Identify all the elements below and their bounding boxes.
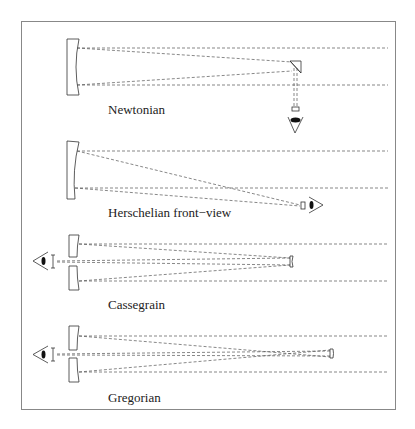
eyepiece <box>292 107 299 111</box>
gregorian-label: Gregorian <box>108 390 161 405</box>
secondary-mirror <box>330 349 334 358</box>
reflected-beam <box>79 350 330 372</box>
herschelian-panel: Herschelian front−view <box>67 141 388 220</box>
eyepiece <box>51 348 55 361</box>
primary-mirror-upper <box>69 235 79 257</box>
eye-icon <box>33 252 48 270</box>
eyepiece <box>301 202 305 209</box>
primary-mirror <box>67 141 79 199</box>
secondary-beam <box>55 262 290 265</box>
primary-mirror-lower <box>69 358 79 382</box>
reflected-beam <box>79 336 330 357</box>
primary-mirror-lower <box>69 266 79 290</box>
secondary-beam <box>55 258 290 261</box>
reflected-beam <box>75 188 300 206</box>
cassegrain-panel: Cassegrain <box>33 235 388 312</box>
secondary-mirror <box>290 256 293 267</box>
pupil <box>291 118 301 123</box>
reflected-beam <box>79 244 290 258</box>
telescope-diagram: Newtonian Herschelian front−view Cassegr… <box>0 0 415 429</box>
secondary-beam <box>55 355 330 356</box>
reflected-beam <box>77 71 292 85</box>
pupil <box>42 351 46 359</box>
cassegrain-label: Cassegrain <box>108 297 166 312</box>
newtonian-panel: Newtonian <box>67 39 388 133</box>
eyepiece <box>51 255 55 268</box>
reflected-beam <box>79 265 290 281</box>
gregorian-panel: Gregorian <box>33 326 388 405</box>
reflected-beam <box>77 151 300 205</box>
primary-mirror <box>67 39 79 95</box>
primary-mirror-upper <box>69 326 79 350</box>
eye-icon <box>33 346 48 363</box>
pupil <box>310 201 314 209</box>
newtonian-label: Newtonian <box>108 102 166 117</box>
pupil <box>42 257 46 265</box>
herschelian-label: Herschelian front−view <box>108 205 232 220</box>
reflected-beam <box>77 48 292 62</box>
